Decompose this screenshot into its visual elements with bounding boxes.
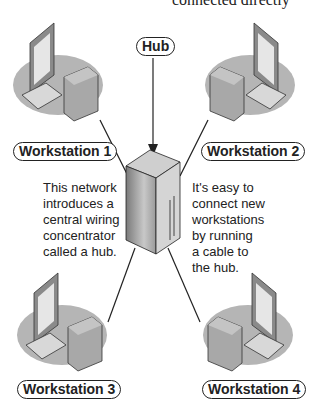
left-caption: This network introduces a central wiring…	[43, 180, 120, 260]
workstation-2-icon	[205, 23, 295, 121]
workstation-4-icon	[203, 273, 293, 371]
hub-label: Hub	[136, 37, 175, 56]
workstation-2-label: Workstation 2	[201, 142, 305, 161]
workstation-1-icon	[13, 23, 103, 121]
workstation-1-label: Workstation 1	[13, 142, 117, 161]
workstation-3-icon	[17, 273, 107, 371]
workstation-4-label: Workstation 4	[202, 380, 306, 399]
workstation-3-label: Workstation 3	[17, 380, 121, 399]
right-caption: It's easy to connect new workstations by…	[192, 180, 265, 276]
hub-device-icon	[126, 150, 180, 254]
